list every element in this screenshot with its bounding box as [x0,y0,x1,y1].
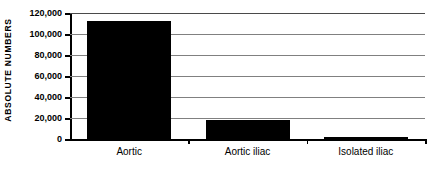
y-axis-tick-label: 20,000 [34,113,62,123]
y-axis-tick-label: 0 [57,134,62,144]
x-axis-category-labels: AorticAortic iliacIsolated iliac [70,146,425,166]
y-axis-tick-mark [65,76,70,78]
x-axis-tick-mark [188,139,190,144]
x-axis-label-aortic-iliac: Aortic iliac [225,146,271,157]
x-axis-baseline [70,139,425,141]
bar-chart-figure: ABSOLUTE NUMBERS 020,00040,00060,00080,0… [0,0,438,169]
x-axis-label-isolated-iliac: Isolated iliac [338,146,393,157]
x-axis-label-aortic: Aortic [116,146,142,157]
y-axis-tick-mark [65,118,70,120]
bar-isolated-iliac [324,137,408,139]
y-axis-tick-label: 100,000 [29,29,62,39]
y-axis-tick-labels: 020,00040,00060,00080,000100,000120,000 [14,0,66,169]
y-axis-tick-label: 40,000 [34,92,62,102]
y-axis-tick-label: 60,000 [34,71,62,81]
y-axis-tick-mark [65,55,70,57]
x-axis-tick-mark [307,139,309,144]
y-axis-title-text: ABSOLUTE NUMBERS [3,18,13,121]
y-axis-tick-mark [65,139,70,141]
bar-aortic [87,21,171,139]
y-axis-tick-mark [65,97,70,99]
bar-aortic-iliac [206,120,290,139]
y-axis-tick-label: 120,000 [29,8,62,18]
plot-area [70,13,425,139]
y-axis-tick-label: 80,000 [34,50,62,60]
y-axis-tick-mark [65,13,70,15]
y-axis-tick-mark [65,34,70,36]
gridline [70,13,425,14]
x-axis-tick-mark [425,139,427,144]
